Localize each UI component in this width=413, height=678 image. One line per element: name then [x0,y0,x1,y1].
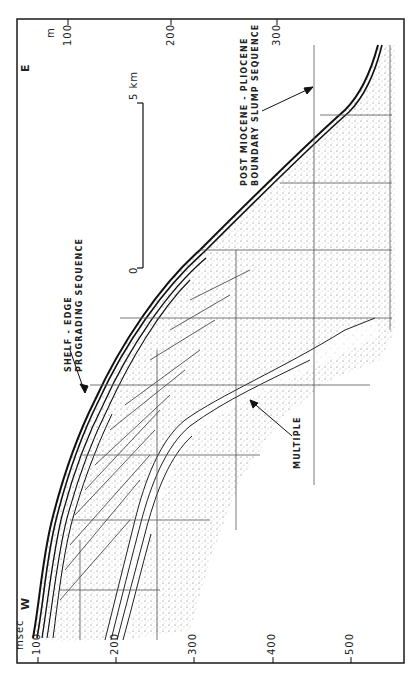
time-tick-200: 200 [109,633,120,655]
seismic-profile-figure: E W msec 100 200 300 400 500 m 100 200 3… [0,0,413,678]
slump-annotation: POST MIOCENE - PLIOCENE BOUNDARY SLUMP S… [239,23,261,186]
time-tick-100: 100 [31,633,42,655]
shelf-edge-line1: SHELF - EDGE [63,238,74,372]
west-label: W [19,597,32,610]
east-label: E [19,63,32,72]
depth-axis-unit: m [45,27,56,38]
shelf-edge-line2: PROGRADING SEQUENCE [74,238,85,372]
depth-tick-200: 200 [165,24,176,46]
time-tick-400: 400 [266,633,277,655]
multiple-annotation: MULTIPLE [292,416,303,469]
scale-bar-end-label: 5 km [128,71,139,100]
time-tick-500: 500 [344,633,355,655]
multiple-line1: MULTIPLE [292,416,303,469]
depth-tick-100: 100 [62,24,73,46]
time-tick-300: 300 [187,633,198,655]
shelf-edge-annotation: SHELF - EDGE PROGRADING SEQUENCE [63,238,85,372]
seismic-section [0,0,413,678]
slump-line1: POST MIOCENE - PLIOCENE [239,23,250,186]
depth-tick-300: 300 [271,24,282,46]
slump-line2: BOUNDARY SLUMP SEQUENCE [250,23,261,186]
time-axis-unit: msec [14,619,25,650]
scale-bar-start-label: 0 [128,267,139,274]
